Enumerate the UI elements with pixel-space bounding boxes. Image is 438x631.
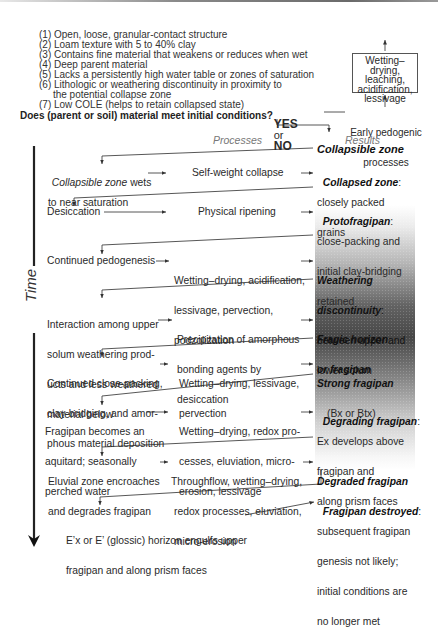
result-title: Weathering xyxy=(317,276,405,286)
box-line: lessivage xyxy=(353,94,417,104)
result-stage-8: Fragipan destroyed: subsequent fragipan … xyxy=(317,497,421,631)
process-line: Throughflow, wetting–drying, xyxy=(171,477,302,487)
condition-line: E’x or E’ (glossic) horizon engulfs uppe… xyxy=(66,536,247,546)
result-line: no longer met xyxy=(317,617,421,627)
result-title: Protofragipan xyxy=(323,216,391,227)
no-label: NO xyxy=(274,139,292,153)
condition-stage-2: Desiccation xyxy=(47,207,100,217)
result-title: Collapsed zone xyxy=(323,177,399,188)
time-axis-label: Time xyxy=(22,266,39,305)
condition-line: Continued close-packing, xyxy=(47,379,164,389)
result-stage-7: Degraded fragipan xyxy=(317,457,408,497)
condition-line: Interaction among upper xyxy=(47,320,159,330)
condition-stage-3: Continued pedogenesis xyxy=(47,256,155,266)
label-line: processes xyxy=(349,158,423,168)
early-pedogenic-box: Wetting–drying, leaching, acidification,… xyxy=(352,53,418,93)
initial-conditions-question: Does (parent or soil) material meet init… xyxy=(20,111,273,121)
result-title: Fragipan destroyed xyxy=(323,506,419,517)
condition-item: (7) Low COLE (helps to retain collapsed … xyxy=(39,100,244,110)
result-title: Degraded fragipan xyxy=(317,477,408,487)
condition-line: fragipan and along prism faces xyxy=(66,566,247,576)
process-line: Wetting–drying, acidification, xyxy=(174,276,305,286)
result-title: Strong fragipan xyxy=(317,379,394,389)
condition-line: Eluvial zone encroaches xyxy=(48,477,160,487)
condition-line: Fragipan becomes an xyxy=(45,427,145,437)
process-stage-1: Self-weight collapse xyxy=(192,168,284,178)
result-line: close-packing and xyxy=(317,237,402,247)
start-result: Collapsible zone xyxy=(317,144,404,154)
box-line: Wetting–drying, xyxy=(353,56,417,75)
result-line: genesis not likely; xyxy=(317,557,421,567)
process-line: Wetting–drying, lessivage, xyxy=(179,379,299,389)
process-stage-2: Physical ripening xyxy=(198,207,276,217)
process-line: Precipitation of amorphous xyxy=(177,335,300,345)
processes-header: Processes xyxy=(213,135,262,145)
yes-no-choice: YES or NO xyxy=(268,109,298,152)
condition-stage-8: E’x or E’ (glossic) horizon engulfs uppe… xyxy=(66,516,247,586)
process-line: Wetting–drying, redox pro- xyxy=(179,427,300,437)
condition-italic: Collapsible zone xyxy=(52,177,128,188)
result-title: Degrading fragipan xyxy=(323,416,417,427)
result-line: Ex develops above xyxy=(317,437,420,447)
condition-rest: wets xyxy=(127,177,151,188)
result-line: subsequent fragipan xyxy=(317,527,421,537)
result-line: initial conditions are xyxy=(317,587,421,597)
result-title: Fragic horizon xyxy=(317,335,388,345)
